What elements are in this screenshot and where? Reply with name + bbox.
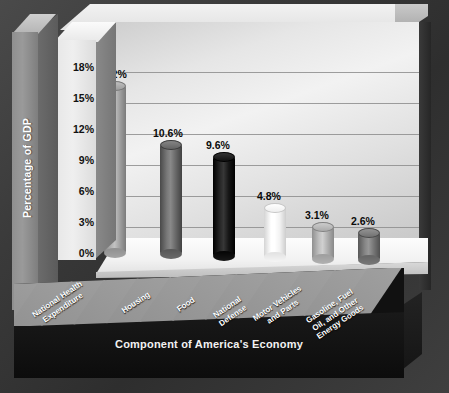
y-tick-label-0: 0%: [56, 248, 94, 258]
chart-container: 16.2%10.6%9.6%4.8%3.1%2.6% 0%3%6%9%12%15…: [0, 0, 449, 393]
bar-top-cap: [213, 152, 235, 162]
bar-5[interactable]: [312, 227, 334, 259]
bar-top-cap: [312, 222, 334, 232]
bar-value-label-3: 9.6%: [206, 139, 230, 151]
bar-body: [160, 145, 182, 255]
bar-value-label-4: 4.8%: [257, 190, 281, 202]
bar-bottom-cap: [104, 248, 126, 258]
bar-body: [264, 208, 286, 258]
bar-top-cap: [264, 203, 286, 213]
y-tick-label-12: 12%: [56, 124, 94, 134]
bar-2[interactable]: [160, 145, 182, 255]
bar-bottom-cap: [312, 254, 334, 264]
tick-slab-side: [94, 22, 116, 262]
gridline-15: [116, 103, 428, 104]
bar-body: [213, 157, 235, 256]
y-tick-label-6: 6%: [56, 186, 94, 196]
bar-value-label-2: 10.6%: [153, 127, 183, 139]
bar-3[interactable]: [213, 157, 235, 256]
gridline-18: [116, 72, 428, 73]
bar-4[interactable]: [264, 208, 286, 258]
bar-bottom-cap: [358, 255, 380, 265]
bar-6[interactable]: [358, 233, 380, 260]
y-axis-title-panel: Percentage of GDP: [12, 32, 38, 310]
y-axis-tick-panel: 0%3%6%9%12%15%18%: [54, 40, 96, 260]
bar-bottom-cap: [213, 251, 235, 261]
y-axis-title: Percentage of GDP: [21, 43, 33, 293]
y-axis-title-panel-side: [36, 14, 58, 310]
y-tick-label-15: 15%: [56, 93, 94, 103]
y-tick-label-18: 18%: [56, 62, 94, 72]
bar-top-cap: [160, 140, 182, 150]
bar-value-label-6: 2.6%: [351, 215, 375, 227]
y-tick-label-9: 9%: [56, 155, 94, 165]
bar-value-label-5: 3.1%: [305, 209, 329, 221]
x-axis-title: Component of America's Economy: [14, 338, 404, 350]
y-tick-label-3: 3%: [56, 217, 94, 227]
